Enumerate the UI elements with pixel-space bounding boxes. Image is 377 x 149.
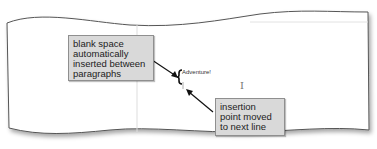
- document-paragraph-text[interactable]: Adventure!: [182, 69, 211, 75]
- callout-line: paragraphs: [73, 69, 149, 79]
- callout-blank-space: blank space automatically inserted betwe…: [68, 35, 154, 81]
- callout-line: to next line: [220, 122, 280, 132]
- callout-insertion-point: insertion point moved to next line: [215, 98, 285, 136]
- ibeam-cursor-icon: I: [240, 80, 244, 91]
